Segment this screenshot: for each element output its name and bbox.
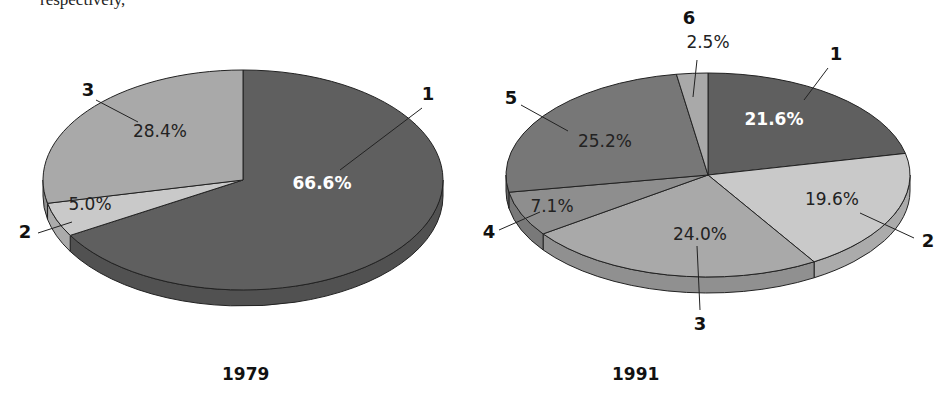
- pie-chart-1991: 21.6%19.6%24.0%7.1%25.2%2.5%123456: [483, 7, 935, 334]
- slice-number-label: 3: [694, 313, 707, 334]
- slice-value-label: 66.6%: [293, 173, 352, 193]
- slice-number-label: 2: [922, 230, 935, 251]
- slice-value-label: 5.0%: [68, 194, 111, 214]
- slice-value-label: 24.0%: [673, 224, 727, 244]
- slice-number-label: 2: [19, 221, 32, 242]
- slice-number-label: 6: [683, 7, 696, 28]
- pie-charts: 66.6%5.0%28.4%123 21.6%19.6%24.0%7.1%25.…: [0, 0, 943, 413]
- slice-value-label: 19.6%: [805, 189, 859, 209]
- slice-number-label: 1: [422, 83, 435, 104]
- chart-title-1979: 1979: [222, 364, 269, 384]
- slice-number-label: 3: [82, 79, 95, 100]
- pie-chart-1979: 66.6%5.0%28.4%123: [19, 70, 443, 306]
- slice-number-label: 4: [483, 221, 496, 242]
- slice-number-label: 1: [830, 43, 843, 64]
- slice-value-label: 21.6%: [745, 109, 804, 129]
- slice-number-label: 5: [505, 87, 518, 108]
- slice-value-label: 2.5%: [686, 32, 729, 52]
- slice-value-label: 25.2%: [578, 131, 632, 151]
- chart-title-1991: 1991: [612, 364, 659, 384]
- slice-value-label: 28.4%: [133, 121, 187, 141]
